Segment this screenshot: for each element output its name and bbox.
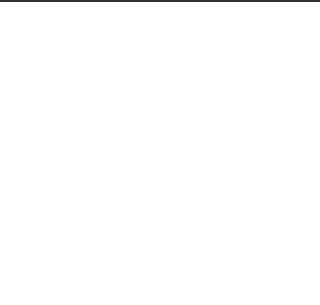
- tiling-diagram: [0, 0, 320, 305]
